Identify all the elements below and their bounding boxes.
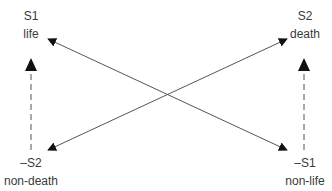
node-term: non-death	[0, 172, 62, 190]
node-term: death	[284, 25, 326, 43]
node-symbol: S1	[14, 7, 48, 25]
node-s1-life: S1 life	[14, 7, 48, 43]
node-not-s1-non-life: –S1 non-life	[280, 154, 330, 190]
node-symbol: –S1	[280, 154, 330, 172]
arrowhead-up-right-icon	[298, 58, 310, 71]
node-term: non-life	[280, 172, 330, 190]
arrowhead-up-left-icon	[25, 58, 37, 71]
node-symbol: S2	[284, 7, 326, 25]
node-term: life	[14, 25, 48, 43]
node-s2-death: S2 death	[284, 7, 326, 43]
node-symbol: –S2	[0, 154, 62, 172]
node-not-s2-non-death: –S2 non-death	[0, 154, 62, 190]
